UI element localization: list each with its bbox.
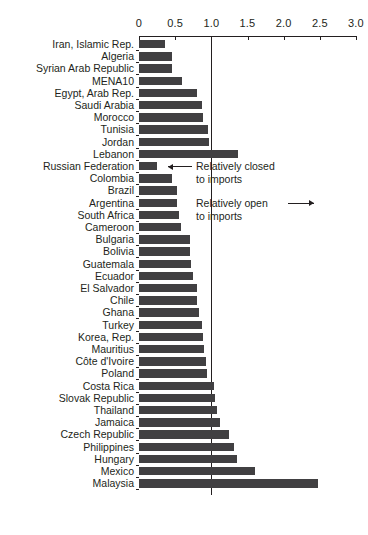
bar (139, 333, 203, 341)
bar (139, 430, 229, 438)
bar (139, 296, 197, 304)
bar (139, 247, 190, 255)
category-label: Iran, Islamic Rep. (52, 39, 134, 50)
chart-container: 00.51.01.52.02.53.0 Iran, Islamic Rep.Al… (0, 0, 368, 535)
bar-row: Jamaica (0, 418, 368, 430)
bar (139, 150, 238, 158)
category-label: Tunisia (101, 124, 134, 135)
category-label: Mexico (101, 466, 134, 477)
category-label: Bulgaria (95, 234, 134, 245)
x-tick-label-0: 0 (119, 17, 159, 29)
bar (139, 199, 177, 207)
bar-row: Morocco (0, 113, 368, 125)
bar-row: Korea, Rep. (0, 333, 368, 345)
category-label: Slovak Republic (59, 393, 134, 404)
bar-row: Costa Rica (0, 382, 368, 394)
bar (139, 467, 255, 475)
category-label: Ghana (102, 307, 134, 318)
category-label: Brazil (108, 185, 134, 196)
y-tick (136, 111, 139, 112)
category-label: Saudi Arabia (74, 100, 134, 111)
bar-row: Syrian Arab Republic (0, 64, 368, 76)
bar-row: Mexico (0, 467, 368, 479)
category-label: Cameroon (85, 222, 134, 233)
x-tick-label-2.0: 2.0 (264, 17, 304, 29)
category-label: Czech Republic (60, 429, 134, 440)
bar (139, 138, 209, 146)
x-tick-label-1.0: 1.0 (191, 17, 231, 29)
bar-row: Chile (0, 296, 368, 308)
category-label: Egypt, Arab Rep. (55, 88, 134, 99)
category-label: Hungary (94, 454, 134, 465)
y-tick (136, 453, 139, 454)
bar (139, 260, 191, 268)
bar (139, 357, 206, 365)
x-tick-label-1.5: 1.5 (228, 17, 268, 29)
bar-row: Bulgaria (0, 235, 368, 247)
category-label: El Salvador (80, 283, 134, 294)
category-label: Jamaica (95, 417, 134, 428)
bar (139, 113, 203, 121)
arrow-right-icon (288, 203, 314, 204)
bar-row: Hungary (0, 455, 368, 467)
category-label: Korea, Rep. (78, 332, 134, 343)
bar (139, 211, 179, 219)
category-label: Colombia (90, 173, 134, 184)
category-label: Syrian Arab Republic (36, 63, 134, 74)
bar-row: Cameroon (0, 223, 368, 235)
y-tick (136, 343, 139, 344)
bar-row: Turkey (0, 321, 368, 333)
category-label: Russian Federation (43, 161, 134, 172)
bar (139, 369, 207, 377)
y-tick (136, 355, 139, 356)
arrow-left-icon (168, 166, 192, 167)
bar-row: Colombia (0, 174, 368, 186)
y-tick (136, 416, 139, 417)
relatively-open-line2: to imports (196, 210, 242, 223)
bar-row: Malaysia (0, 479, 368, 491)
relatively-closed-line1: Relatively closed (196, 160, 275, 173)
x-tick-label-2.5: 2.5 (300, 17, 340, 29)
bar (139, 443, 234, 451)
category-label: Jordan (102, 137, 134, 148)
y-tick (136, 379, 139, 380)
y-tick (136, 74, 139, 75)
category-label: Malaysia (93, 478, 134, 489)
bar-row: Poland (0, 369, 368, 381)
bar-row: Slovak Republic (0, 394, 368, 406)
category-label: Chile (110, 295, 134, 306)
category-label: Guatemala (83, 259, 134, 270)
category-label: Lebanon (93, 149, 134, 160)
bar-row: Iran, Islamic Rep. (0, 40, 368, 52)
bar-row: South Africa (0, 211, 368, 223)
bar-row: Thailand (0, 406, 368, 418)
bar-row: Philippines (0, 443, 368, 455)
bar (139, 223, 181, 231)
bar (139, 455, 237, 463)
y-tick (136, 392, 139, 393)
bar (139, 308, 199, 316)
bar (139, 235, 190, 243)
bar (139, 40, 165, 48)
y-tick (136, 465, 139, 466)
bar (139, 89, 197, 97)
bar-row: El Salvador (0, 284, 368, 296)
y-tick (136, 62, 139, 63)
category-label: Ecuador (95, 271, 134, 282)
y-tick (136, 318, 139, 319)
bar (139, 394, 215, 402)
bar-row: Brazil (0, 186, 368, 198)
bar (139, 52, 172, 60)
y-tick (136, 172, 139, 173)
y-tick (136, 489, 139, 490)
category-label: Algeria (101, 51, 134, 62)
category-label: Philippines (83, 442, 134, 453)
bar-row: Ecuador (0, 272, 368, 284)
y-tick (136, 196, 139, 197)
relatively-closed-line2: to imports (196, 173, 242, 186)
y-tick (136, 367, 139, 368)
y-tick (136, 404, 139, 405)
category-label: Poland (101, 368, 134, 379)
y-tick (136, 148, 139, 149)
bar-row: Saudi Arabia (0, 101, 368, 113)
